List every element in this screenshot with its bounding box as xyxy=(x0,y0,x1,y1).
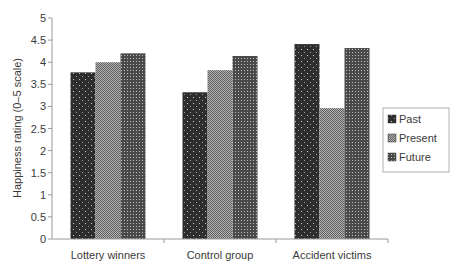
bar-chart: 00.511.522.533.544.55 Lottery winnersCon… xyxy=(0,0,452,276)
bar-past xyxy=(71,72,96,239)
legend-label-future: Future xyxy=(399,151,431,163)
bar-future xyxy=(233,56,258,239)
y-tick-label: 5 xyxy=(40,12,46,24)
legend-label-past: Past xyxy=(399,113,421,125)
y-tick-label: 2.5 xyxy=(31,123,46,135)
bar-future xyxy=(121,53,146,239)
y-tick-label: 0.5 xyxy=(31,211,46,223)
y-tick-label: 2 xyxy=(40,145,46,157)
bars xyxy=(71,44,370,239)
y-tick-label: 1.5 xyxy=(31,167,46,179)
bar-past xyxy=(183,92,208,239)
x-axis: Lottery winnersControl groupAccident vic… xyxy=(52,239,388,261)
y-axis-title: Happiness rating (0–5 scale) xyxy=(11,58,23,198)
x-category-label: Control group xyxy=(187,249,254,261)
bar-future xyxy=(345,48,370,239)
legend-swatch-future xyxy=(388,153,396,161)
legend: PastPresentFuture xyxy=(383,108,449,172)
y-tick-label: 0 xyxy=(40,233,46,245)
y-tick-label: 1 xyxy=(40,189,46,201)
y-tick-label: 3.5 xyxy=(31,78,46,90)
bar-present xyxy=(208,70,233,239)
bar-present xyxy=(96,62,121,239)
bar-present xyxy=(320,108,345,239)
y-axis: 00.511.522.533.544.55 xyxy=(31,12,52,245)
bar-past xyxy=(295,44,320,239)
legend-swatch-present xyxy=(388,134,396,142)
y-tick-label: 4.5 xyxy=(31,34,46,46)
y-tick-label: 3 xyxy=(40,100,46,112)
x-category-label: Lottery winners xyxy=(71,249,146,261)
y-tick-label: 4 xyxy=(40,56,46,68)
legend-swatch-past xyxy=(388,115,396,123)
x-category-label: Accident victims xyxy=(293,249,372,261)
legend-label-present: Present xyxy=(399,132,437,144)
